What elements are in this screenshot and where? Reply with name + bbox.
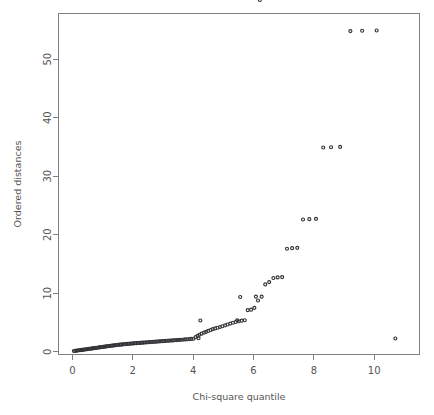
x-tick-label: 10 [368,365,381,376]
x-tick-label: 8 [311,365,317,376]
y-axis-title: Ordered distances [12,141,23,228]
x-tick-label: 2 [130,365,136,376]
y-tick-label: 50 [42,53,53,66]
y-tick-label: 0 [42,349,53,355]
y-tick-label: 10 [42,287,53,300]
y-tick-label: 20 [42,228,53,241]
x-tick-label: 4 [190,365,196,376]
x-axis-title: Chi-square quantile [193,391,286,402]
x-tick-label: 0 [69,365,75,376]
chart-canvas: 0246810 01020304050 Chi-square quantile … [0,0,434,415]
x-tick-label: 6 [250,365,256,376]
qq-plot-figure: 0246810 01020304050 Chi-square quantile … [0,0,434,415]
y-tick-label: 30 [42,170,53,183]
figure-background [0,0,434,415]
y-tick-label: 40 [42,111,53,124]
